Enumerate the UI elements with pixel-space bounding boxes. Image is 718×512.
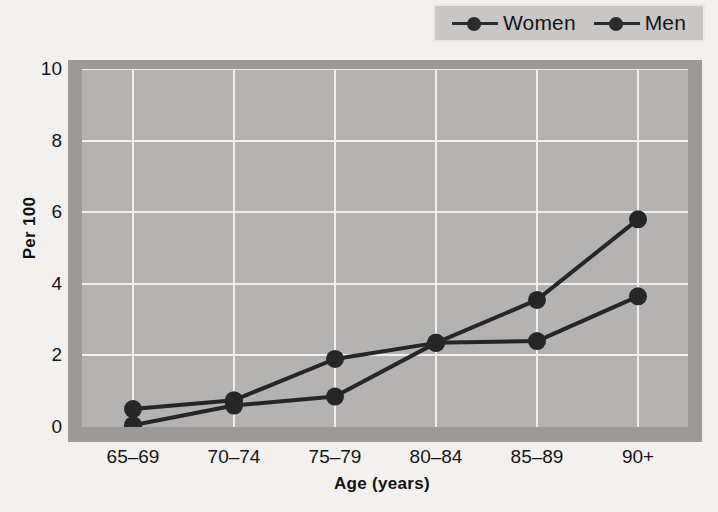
line-chart-figure: Women Men Per 100 0246810 65–6970–7475–7… [0, 0, 718, 512]
y-axis-tick-label: 4 [16, 273, 62, 295]
legend-marker-women-icon [452, 14, 498, 32]
plot-area [82, 69, 688, 427]
data-point-men [427, 334, 445, 352]
y-axis-tick-label: 8 [16, 130, 62, 152]
data-point-women [326, 350, 344, 368]
legend-label-women: Women [503, 11, 576, 35]
series-container [82, 69, 688, 427]
legend-marker-men-icon [594, 14, 640, 32]
legend-label-men: Men [645, 11, 686, 35]
y-axis-tick-label: 10 [16, 58, 62, 80]
legend-item-men: Men [594, 11, 686, 35]
x-axis-title: Age (years) [108, 474, 656, 494]
y-axis-tick-label: 2 [16, 344, 62, 366]
x-axis-tick-labels: 65–6970–7475–7980–8485–8990+ [0, 446, 718, 474]
data-point-men [528, 332, 546, 350]
series-line-men [133, 296, 638, 425]
data-point-men [326, 388, 344, 406]
data-point-men [629, 287, 647, 305]
y-axis-tick-label: 6 [16, 201, 62, 223]
legend-item-women: Women [452, 11, 576, 35]
data-point-women [528, 291, 546, 309]
data-point-women [124, 400, 142, 418]
y-axis-tick-label: 0 [16, 416, 62, 438]
data-point-men [124, 416, 142, 427]
y-axis-tick-labels: 0246810 [0, 0, 62, 512]
x-axis-tick-label: 90+ [578, 446, 698, 468]
plot-frame [68, 60, 702, 442]
data-point-men [225, 397, 243, 415]
data-point-women [629, 210, 647, 228]
chart-legend: Women Men [433, 4, 705, 42]
series-line-women [133, 219, 638, 409]
